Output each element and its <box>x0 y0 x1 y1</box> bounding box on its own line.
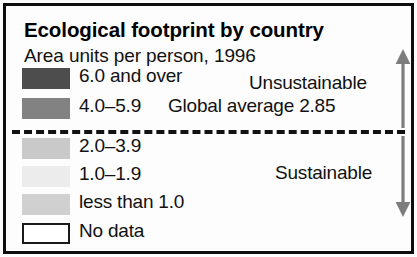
legend-swatch <box>22 166 70 187</box>
legend-frame: Ecological footprint by country Area uni… <box>3 3 414 254</box>
band-label-unsustainable: Unsustainable <box>249 72 367 94</box>
legend-row-label: 1.0–1.9 <box>79 163 141 185</box>
arrow-down-icon <box>390 134 416 218</box>
ecological-footprint-legend: Ecological footprint by country Area uni… <box>0 0 417 257</box>
legend-swatch <box>22 98 70 119</box>
legend-row-label: less than 1.0 <box>79 191 184 213</box>
arrow-up-icon <box>390 48 416 130</box>
sustainability-divider <box>12 130 405 134</box>
legend-swatch <box>22 194 70 215</box>
legend-swatch <box>22 138 70 159</box>
band-label-sustainable: Sustainable <box>275 162 372 184</box>
legend-swatch-no-data <box>22 223 70 244</box>
global-average-note: Global average 2.85 <box>168 95 335 117</box>
legend-row-label: 4.0–5.9 <box>79 95 141 117</box>
page-title: Ecological footprint by country <box>24 18 324 42</box>
legend-subtitle: Area units per person, 1996 <box>24 45 256 67</box>
legend-row-label: 2.0–3.9 <box>79 135 141 157</box>
legend-row-label: No data <box>79 220 144 242</box>
legend-row-label: 6.0 and over <box>79 65 182 87</box>
legend-swatch <box>22 68 70 89</box>
